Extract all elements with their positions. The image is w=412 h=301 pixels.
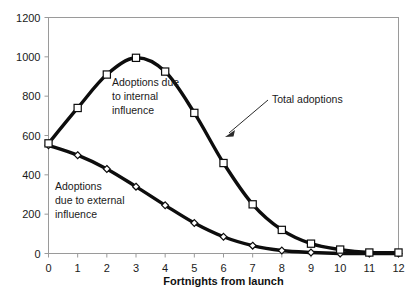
data-point-marker — [366, 249, 373, 256]
data-point-marker — [395, 249, 402, 256]
adoption-curves-chart: 020040060080010001200 0123456789101112 A… — [0, 0, 412, 301]
annotation-total: Total adoptions — [272, 93, 343, 105]
x-tick-label: 11 — [364, 262, 375, 274]
y-tick-label: 200 — [22, 208, 40, 220]
x-tick-label: 7 — [250, 262, 256, 274]
x-tick-label: 8 — [279, 262, 285, 274]
data-point-marker — [162, 68, 169, 75]
x-tick-label: 3 — [133, 262, 139, 274]
y-tick-label: 400 — [22, 169, 40, 181]
chart-container: 020040060080010001200 0123456789101112 A… — [0, 0, 412, 301]
data-point-marker — [278, 226, 285, 233]
x-tick-label: 2 — [104, 262, 110, 274]
x-tick-label: 10 — [334, 262, 346, 274]
data-point-marker — [337, 246, 344, 253]
data-point-marker — [132, 54, 139, 61]
data-point-marker — [74, 104, 81, 111]
y-tick-label: 0 — [34, 248, 40, 260]
x-tick-label: 4 — [162, 262, 168, 274]
x-tick-label: 6 — [220, 262, 226, 274]
data-point-marker — [307, 240, 314, 247]
x-tick-label: 0 — [45, 262, 51, 274]
data-point-marker — [249, 201, 256, 208]
x-axis-title: Fortnights from launch — [163, 275, 284, 287]
x-tick-label: 9 — [308, 262, 314, 274]
y-tick-label: 1200 — [16, 12, 40, 24]
x-tick-label: 5 — [191, 262, 197, 274]
data-point-marker — [45, 140, 52, 147]
x-tick-label: 1 — [75, 262, 81, 274]
y-tick-label: 1000 — [16, 51, 40, 63]
y-tick-label: 600 — [22, 130, 40, 142]
y-tick-label: 800 — [22, 90, 40, 102]
data-point-marker — [191, 109, 198, 116]
x-tick-label: 12 — [392, 262, 404, 274]
data-point-marker — [103, 71, 110, 78]
data-point-marker — [220, 159, 227, 166]
